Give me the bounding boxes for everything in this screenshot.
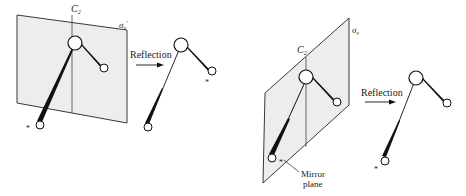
mirror-label: Mirror — [301, 169, 325, 179]
reflection-arrow-icon — [136, 63, 164, 68]
terminal-atom-short — [333, 98, 341, 106]
mirror-plane-leader-line — [284, 160, 299, 172]
reflected-central-atom — [409, 71, 423, 85]
reflected-bond-long-wedge — [382, 120, 400, 157]
left-panel: * C2 σv′ Reflection * — [17, 3, 216, 133]
c2-label: C2 — [297, 44, 307, 56]
c2-label: C2 — [71, 3, 81, 15]
reflection-label: Reflection — [361, 87, 403, 98]
reflected-bond-short-wedge — [421, 76, 446, 105]
reflected-terminal-atom-short — [443, 99, 451, 107]
terminal-atom-short — [100, 64, 108, 72]
reflection-arrow-icon — [365, 100, 396, 105]
reflected-marker-asterisk: * — [374, 165, 378, 174]
reflected-marker-asterisk: * — [205, 78, 209, 87]
marker-asterisk: * — [26, 124, 30, 133]
reflected-terminal-atom-long — [144, 123, 152, 131]
reflected-terminal-atom-short — [208, 67, 216, 75]
sigma-v-label: σv — [352, 25, 359, 36]
terminal-atom-long — [36, 121, 44, 129]
right-panel: * C2 σv Mirror plane Reflection * — [263, 18, 451, 189]
plane-label: plane — [303, 179, 323, 189]
central-atom — [68, 36, 82, 50]
reflected-bond-short-wedge — [186, 45, 210, 73]
reflected-bond-long-wedge — [145, 88, 163, 124]
reflected-terminal-atom-long — [381, 157, 389, 165]
marker-asterisk: * — [279, 158, 283, 167]
symmetry-reflection-diagram: * C2 σv′ Reflection * * C2 — [0, 0, 466, 196]
terminal-atom-long — [268, 154, 276, 162]
central-atom — [299, 70, 313, 84]
sigma-v-prime-label: σv′ — [119, 19, 128, 31]
reflected-central-atom — [174, 38, 188, 52]
reflection-label: Reflection — [130, 49, 172, 60]
